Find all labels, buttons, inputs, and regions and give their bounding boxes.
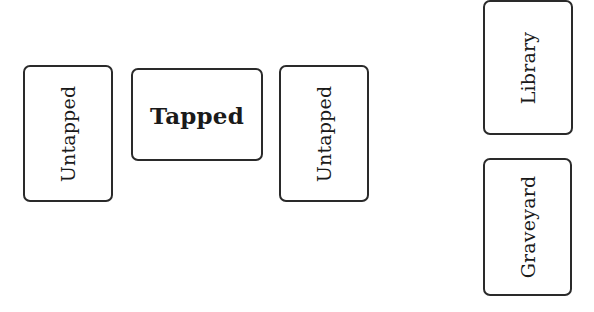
graveyard-pile[interactable]: Graveyard xyxy=(483,158,572,296)
graveyard-label: Graveyard xyxy=(518,176,537,279)
library-pile[interactable]: Library xyxy=(483,0,573,135)
card-label: Untapped xyxy=(59,85,78,182)
tapped-card[interactable]: Tapped xyxy=(131,68,263,161)
library-label: Library xyxy=(519,31,538,103)
untapped-card[interactable]: Untapped xyxy=(279,65,369,202)
card-label: Untapped xyxy=(315,85,334,182)
untapped-card[interactable]: Untapped xyxy=(23,65,113,202)
card-label: Tapped xyxy=(150,103,244,126)
